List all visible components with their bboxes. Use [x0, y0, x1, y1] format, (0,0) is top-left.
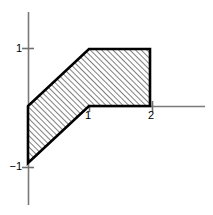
hatched-region-group [28, 49, 150, 163]
x-tick-label-1: 1 [85, 110, 91, 121]
y-tick-label-1: 1 [8, 43, 22, 54]
x-tick-label-2: 2 [148, 110, 154, 121]
figure-container: 1 −1 1 2 [0, 0, 213, 215]
y-tick-label-neg1: −1 [2, 161, 22, 172]
plot-canvas [0, 0, 213, 215]
